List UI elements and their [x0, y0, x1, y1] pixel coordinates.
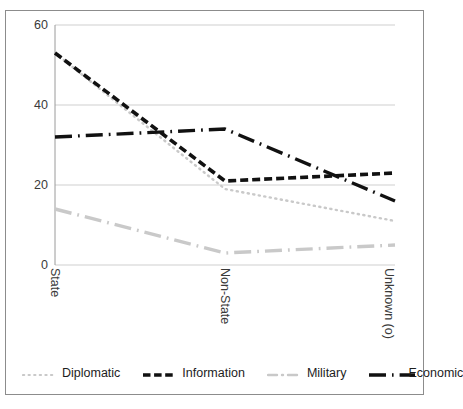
- y-tick-label: 40: [4, 99, 48, 112]
- legend-label: Economic: [408, 366, 463, 380]
- x-tick-label: Non-State: [219, 268, 232, 324]
- series-line-military: [55, 209, 395, 253]
- y-axis-tick-labels: 60 40 20 0: [0, 25, 48, 265]
- x-axis-tick-labels: State Non-State Unknown (o): [55, 268, 395, 358]
- series-line-economic: [55, 129, 395, 201]
- plot-area: [55, 25, 395, 265]
- x-tick-label: Unknown (o): [383, 268, 396, 339]
- legend-entry-economic[interactable]: Economic: [368, 366, 463, 380]
- y-tick-label: 0: [4, 259, 48, 272]
- legend-swatch-dashdot-light-icon: [267, 367, 301, 379]
- legend-entry-military[interactable]: Military: [267, 366, 347, 380]
- gridlines: [55, 25, 395, 265]
- x-tick-label: State: [49, 268, 62, 297]
- legend-label: Diplomatic: [62, 366, 120, 380]
- data-series-layer: [55, 53, 395, 253]
- series-line-information: [55, 53, 395, 181]
- legend-swatch-dashdot-dark-icon: [368, 367, 402, 379]
- chart-legend: Diplomatic Information Military: [22, 363, 414, 383]
- legend-entry-diplomatic[interactable]: Diplomatic: [22, 366, 120, 380]
- legend-label: Information: [182, 366, 245, 380]
- legend-label: Military: [307, 366, 347, 380]
- legend-swatch-dotted-light-icon: [22, 367, 56, 379]
- series-line-diplomatic: [55, 53, 395, 221]
- legend-swatch-dashed-dark-icon: [142, 367, 176, 379]
- y-tick-label: 60: [4, 19, 48, 32]
- chart-canvas: [55, 25, 395, 265]
- legend-entry-information[interactable]: Information: [142, 366, 245, 380]
- y-tick-label: 20: [4, 179, 48, 192]
